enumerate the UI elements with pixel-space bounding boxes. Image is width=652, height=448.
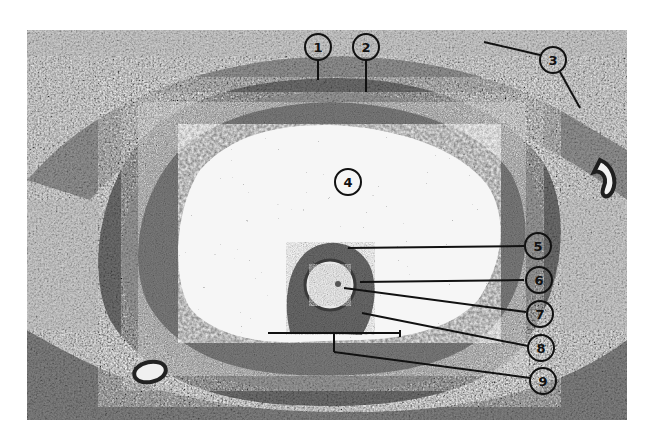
label-5-text: 5 [533,239,542,254]
follicle-micrograph: 1 2 3 4 5 6 7 8 9 [0,0,652,448]
oocyte-cytoplasm [309,264,351,306]
label-6-text: 6 [534,273,543,288]
oocyte-nucleus [335,281,341,287]
label-2-text: 2 [361,40,370,55]
label-7-text: 7 [535,307,544,322]
label-9-text: 9 [538,374,547,389]
label-1-text: 1 [313,40,322,55]
label-4-text: 4 [343,175,352,190]
label-8-text: 8 [536,341,545,356]
label-3-text: 3 [548,53,557,68]
